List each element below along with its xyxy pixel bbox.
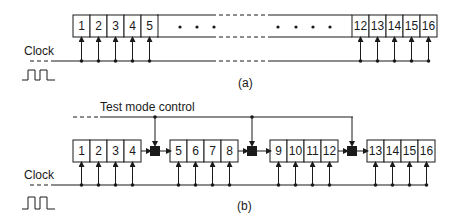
junction-dot xyxy=(80,183,84,187)
junction-dot xyxy=(328,183,332,187)
junction-dot xyxy=(311,183,315,187)
cell-number: 16 xyxy=(422,19,436,33)
junction-dot xyxy=(250,115,254,119)
cell-number: 14 xyxy=(388,19,402,33)
junction-dot xyxy=(376,59,380,63)
junction-dot xyxy=(97,59,101,63)
junction-dot xyxy=(374,183,378,187)
clock-waveform-icon-b xyxy=(22,197,55,209)
cell-number: 8 xyxy=(226,144,233,158)
ellipsis-dot xyxy=(328,25,331,28)
cell-number: 12 xyxy=(354,19,368,33)
figure-a: 123451213141516 Clock (a) xyxy=(22,15,437,90)
cell-number: 4 xyxy=(129,144,136,158)
clock-waveform-icon xyxy=(22,70,55,80)
cell-number: 10 xyxy=(289,144,303,158)
cell-number: 1 xyxy=(78,144,85,158)
junction-dot xyxy=(427,59,431,63)
clock-label-b: Clock xyxy=(24,168,55,182)
register-a: 123451213141516 xyxy=(73,15,437,37)
cell-number: 5 xyxy=(146,19,153,33)
junction-dot xyxy=(408,183,412,187)
cell-number: 11 xyxy=(306,144,319,158)
junction-dot xyxy=(177,183,181,187)
ellipsis-dot xyxy=(212,25,215,28)
junction-dot xyxy=(410,59,414,63)
cell-number: 16 xyxy=(420,144,434,158)
test-mode-control-label: Test mode control xyxy=(100,100,195,114)
cell-number: 3 xyxy=(112,144,119,158)
junction-dot xyxy=(131,59,135,63)
junction-dot xyxy=(393,59,397,63)
cell-number: 15 xyxy=(405,19,419,33)
clock-arrows-b xyxy=(80,164,429,187)
caption-a: (a) xyxy=(238,76,253,90)
cell-number: 2 xyxy=(95,144,102,158)
junction-dot xyxy=(131,183,135,187)
cell-number: 12 xyxy=(323,144,337,158)
scan-register-diagram: 123451213141516 Clock (a) Test mode cont… xyxy=(0,0,457,219)
ellipsis-dot xyxy=(276,25,279,28)
junction-dot xyxy=(148,59,152,63)
cell-number: 9 xyxy=(275,144,282,158)
junction-dot xyxy=(80,59,84,63)
junction-dot xyxy=(97,183,101,187)
cell-number: 15 xyxy=(403,144,417,158)
cell-number: 4 xyxy=(129,19,136,33)
junction-dot xyxy=(359,59,363,63)
junction-dot xyxy=(277,183,281,187)
ellipsis-dot xyxy=(311,25,314,28)
junction-dot xyxy=(294,183,298,187)
cell-number: 5 xyxy=(175,144,182,158)
cell-number: 14 xyxy=(386,144,400,158)
ellipsis-dots xyxy=(178,25,331,28)
junction-dot xyxy=(153,115,157,119)
junction-dot xyxy=(228,183,232,187)
cell-number: 1 xyxy=(78,19,85,33)
junction-dot xyxy=(211,183,215,187)
figure-b: Test mode control 1234567891011121314151… xyxy=(22,100,435,213)
cell-number: 13 xyxy=(369,144,383,158)
cell-number: 3 xyxy=(112,19,119,33)
junction-dot xyxy=(391,183,395,187)
junction-dot xyxy=(114,183,118,187)
cell-number: 7 xyxy=(209,144,216,158)
mux-block xyxy=(247,146,257,156)
mux-block xyxy=(347,146,357,156)
cell-number: 13 xyxy=(371,19,385,33)
clock-label-a: Clock xyxy=(24,44,55,58)
cell-number: 2 xyxy=(95,19,102,33)
ellipsis-dot xyxy=(178,25,181,28)
mux-block xyxy=(150,146,160,156)
ellipsis-dot xyxy=(294,25,297,28)
ellipsis-dot xyxy=(195,25,198,28)
junction-dot xyxy=(194,183,198,187)
cell-number: 6 xyxy=(192,144,199,158)
junction-dot xyxy=(114,59,118,63)
junction-dot xyxy=(425,183,429,187)
clock-arrows-a xyxy=(80,39,431,63)
caption-b: (b) xyxy=(237,199,252,213)
